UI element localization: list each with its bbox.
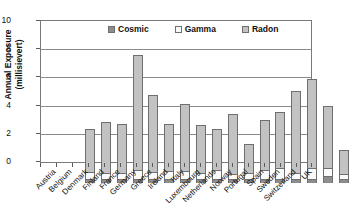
y-tick-label: 2 xyxy=(0,129,11,138)
legend-entry-cosmic[interactable]: Cosmic xyxy=(108,24,149,34)
bar-segment-radon xyxy=(307,79,317,168)
bar-group[interactable] xyxy=(133,42,143,183)
y-tick-mark xyxy=(36,20,40,21)
bar-group[interactable] xyxy=(228,42,238,183)
bar-group[interactable] xyxy=(323,42,333,183)
bar-segment-radon xyxy=(148,95,158,172)
legend-swatch-icon xyxy=(108,26,115,33)
bar-group[interactable] xyxy=(291,42,301,183)
legend-label: Gamma xyxy=(185,24,216,34)
y-tick-mark xyxy=(36,105,40,106)
y-tick-label: 10 xyxy=(0,16,11,25)
y-tick-mark xyxy=(36,48,40,49)
y-tick-label: 0 xyxy=(0,157,11,166)
bar-group[interactable] xyxy=(164,42,174,183)
y-tick-mark xyxy=(36,161,40,162)
y-tick-label: 4 xyxy=(0,101,11,110)
bar-group[interactable] xyxy=(148,42,158,183)
legend-swatch-icon xyxy=(242,26,249,33)
y-tick-mark xyxy=(36,133,40,134)
bars-container xyxy=(82,42,352,183)
bar-group[interactable] xyxy=(275,42,285,183)
y-tick-label: 8 xyxy=(0,44,11,53)
bar-group[interactable] xyxy=(101,42,111,183)
bar-group[interactable] xyxy=(85,42,95,183)
bar-segment-radon xyxy=(323,106,333,167)
bar-group[interactable] xyxy=(244,42,254,183)
chart-legend: CosmicGammaRadon xyxy=(108,24,278,34)
bar-segment-radon xyxy=(339,150,349,174)
bar-group[interactable] xyxy=(260,42,270,183)
legend-entry-radon[interactable]: Radon xyxy=(242,24,278,34)
legend-entry-gamma[interactable]: Gamma xyxy=(175,24,216,34)
bar-segment-cosmic xyxy=(339,179,349,183)
bar-segment-radon xyxy=(291,91,301,173)
bar-group[interactable] xyxy=(212,42,222,183)
bar-segment-radon xyxy=(180,104,190,171)
y-tick-label: 6 xyxy=(0,72,11,81)
legend-swatch-icon xyxy=(175,26,182,33)
bar-group[interactable] xyxy=(196,42,206,183)
x-axis-labels: AustriaBelgiumDenmarkFinlandFranceGerman… xyxy=(0,163,327,220)
bar-group[interactable] xyxy=(117,42,127,183)
bar-segment-radon xyxy=(133,55,143,171)
legend-label: Radon xyxy=(252,24,278,34)
y-tick-mark xyxy=(36,76,40,77)
bar-group[interactable] xyxy=(307,42,317,183)
bar-segment-radon xyxy=(275,112,285,168)
plot-area xyxy=(40,20,312,163)
legend-label: Cosmic xyxy=(118,24,149,34)
bar-group[interactable] xyxy=(339,42,349,183)
bar-group[interactable] xyxy=(180,42,190,183)
